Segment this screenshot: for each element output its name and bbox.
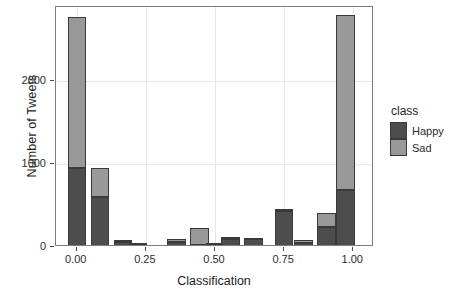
- gridline-horizontal: [56, 81, 372, 82]
- x-axis-tick-label: 0.50: [191, 253, 237, 265]
- x-axis-tick-label: 0.75: [260, 253, 306, 265]
- x-axis-tick-mark: [214, 247, 215, 251]
- bar-segment-happy: [336, 190, 354, 246]
- bar-segment-sad: [221, 237, 239, 239]
- bar-segment-sad: [167, 239, 185, 242]
- legend: class HappySad: [390, 104, 456, 156]
- x-axis-tick-mark: [283, 247, 284, 251]
- legend-swatch-icon: [390, 139, 407, 156]
- y-axis-tick-label: 2000: [12, 75, 46, 85]
- bar-segment-sad: [275, 209, 293, 211]
- x-axis-tick-mark: [145, 247, 146, 251]
- bar-segment-happy: [221, 239, 239, 246]
- x-axis-title: Classification: [55, 274, 373, 288]
- bar-segment-happy: [68, 168, 86, 246]
- legend-item[interactable]: Sad: [390, 139, 456, 156]
- bar-segment-happy: [275, 211, 293, 246]
- y-axis-tick-mark: [50, 80, 54, 81]
- legend-swatch-icon: [390, 122, 407, 139]
- legend-title: class: [391, 104, 456, 118]
- legend-item-label: Happy: [412, 125, 444, 137]
- y-axis-tick-labels: 010002000: [12, 0, 46, 302]
- bar-segment-happy: [294, 243, 312, 246]
- bar-segment-sad: [114, 240, 132, 242]
- legend-item[interactable]: Happy: [390, 122, 456, 139]
- bar-segment-happy: [91, 197, 109, 246]
- gridline-vertical: [146, 7, 147, 245]
- plot-panel: [55, 6, 373, 246]
- x-axis-tick-label: 0.25: [122, 253, 168, 265]
- chart-figure: Number of Tweets 010002000 0.000.250.500…: [0, 0, 458, 302]
- bar-segment-sad: [244, 238, 262, 240]
- gridline-horizontal: [56, 164, 372, 165]
- gridline-vertical: [215, 7, 216, 245]
- y-axis-tick-mark: [50, 246, 54, 247]
- x-axis-tick-label: 0.00: [53, 253, 99, 265]
- bar-segment-sad: [68, 17, 86, 168]
- bar-segment-happy: [167, 242, 185, 246]
- x-axis-tick-mark: [76, 247, 77, 251]
- y-axis-tick-mark: [50, 163, 54, 164]
- x-axis-tick-mark: [352, 247, 353, 251]
- bar-segment-happy: [317, 227, 335, 246]
- bar-segment-sad: [91, 168, 109, 198]
- y-axis-tick-label: 0: [12, 241, 46, 251]
- bar-segment-sad: [129, 243, 147, 245]
- bar-segment-sad: [336, 15, 354, 190]
- x-axis-tick-label: 1.00: [329, 253, 375, 265]
- legend-item-label: Sad: [412, 142, 432, 154]
- y-axis-tick-label: 1000: [12, 158, 46, 168]
- legend-entries: HappySad: [390, 122, 456, 156]
- bar-segment-sad: [317, 213, 335, 227]
- bar-segment-sad: [294, 240, 312, 243]
